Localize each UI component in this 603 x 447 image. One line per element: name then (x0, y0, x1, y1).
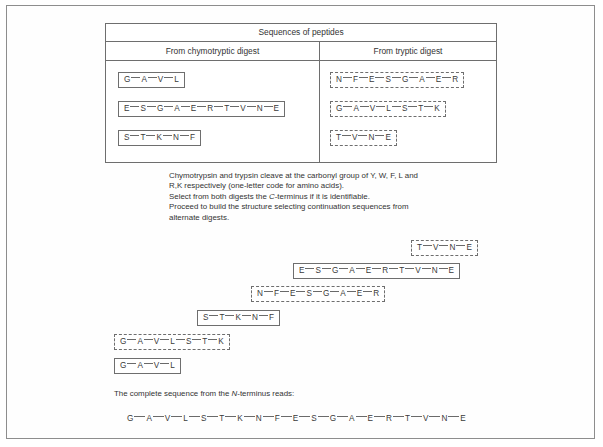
residue: R (207, 102, 213, 116)
chymotryptic-peptide-list: GAVLESGAERTVNESTKNF (106, 61, 320, 162)
staircase-row-tryptic: TVNE (411, 236, 478, 256)
peptide-bond (426, 77, 435, 78)
peptide-chip-tryptic: TVNE (411, 240, 478, 256)
peptide-bond (429, 416, 440, 417)
residue: S (140, 102, 145, 116)
residue: A (137, 335, 142, 349)
residue: V (154, 335, 159, 349)
peptide-chip-tryptic: NFESGAER (251, 286, 385, 302)
residue: N (432, 264, 438, 278)
residue: S (402, 102, 407, 116)
peptide-bond (318, 416, 329, 417)
staircase-row-chymotryptic: ESGAERTVNE (293, 259, 460, 279)
peptide-bond (144, 363, 153, 364)
peptide-bond (322, 268, 331, 269)
peptide-bond (131, 77, 140, 78)
peptide-bond (339, 268, 348, 269)
residue: E (191, 102, 196, 116)
peptide-chip-chymotryptic: STKNF (118, 130, 201, 146)
residue: N (256, 414, 262, 423)
staircase-row-tryptic: NFESGAER (251, 282, 385, 302)
residue: E (274, 102, 279, 116)
peptide-bond (343, 77, 352, 78)
residue: N (368, 131, 374, 145)
residue: E (369, 73, 374, 87)
peptide-bond (347, 291, 356, 292)
residue: G (323, 287, 329, 301)
peptide-bond (264, 106, 273, 107)
residue: K (156, 131, 161, 145)
residue: A (137, 359, 142, 373)
peptide-bond (281, 416, 292, 417)
column-header-chymotryptic: From chymotryptic digest (106, 42, 320, 60)
peptide-row: TVNE (330, 126, 496, 146)
peptide-bond (408, 106, 417, 107)
peptide-row: ESGAERTVNE (118, 97, 319, 117)
figure-frame: Sequences of peptides From chymotryptic … (6, 5, 595, 439)
residue: E (357, 287, 362, 301)
peptide-bond (313, 291, 322, 292)
residue: A (349, 414, 354, 423)
residue: A (419, 73, 424, 87)
staircase-row-tryptic: GAVLSTK (114, 330, 230, 350)
residue: G (402, 73, 408, 87)
residue: G (124, 73, 130, 87)
residue: K (434, 102, 439, 116)
peptide-bond (448, 416, 459, 417)
peptide-bond (360, 106, 369, 107)
peptide-bond (424, 106, 433, 107)
peptide-bond (359, 77, 368, 78)
peptide-bond (146, 135, 155, 136)
residue: V (433, 241, 438, 255)
peptide-row: NFESGAER (330, 68, 496, 88)
peptide-bond (225, 315, 234, 316)
residue: V (352, 131, 357, 145)
peptide-bond (456, 245, 465, 246)
residue: N (173, 131, 179, 145)
peptide-bond (130, 135, 139, 136)
tryptic-peptide-list: NFESGAERGAVLSTKTVNE (320, 61, 496, 162)
residue: S (315, 264, 320, 278)
residue: N (252, 311, 258, 325)
peptide-bond (148, 77, 157, 78)
peptide-bond (164, 106, 173, 107)
peptide-bond (225, 416, 236, 417)
residue: S (203, 311, 208, 325)
residue: T (417, 241, 422, 255)
peptide-bond (439, 268, 448, 269)
table-title: Sequences of peptides (106, 24, 496, 42)
peptide-bond (422, 268, 431, 269)
peptide-bond (127, 339, 136, 340)
residue: S (306, 287, 311, 301)
residue: E (124, 102, 129, 116)
residue: R (452, 73, 458, 87)
residue: N (336, 73, 342, 87)
peptide-chip-tryptic: GAVLSTK (330, 101, 446, 117)
peptide-bond (342, 135, 351, 136)
peptide-bond (343, 106, 352, 107)
residue: N (257, 102, 263, 116)
peptide-chip-chymotryptic: GAVL (118, 72, 185, 88)
residue: F (269, 311, 274, 325)
residue: F (274, 287, 279, 301)
residue: F (190, 131, 195, 145)
residue: N (441, 414, 447, 423)
instruction-text: Chymotrypsin and trypsin cleave at the c… (169, 171, 489, 223)
peptide-row: STKNF (118, 126, 319, 146)
residue: G (332, 264, 338, 278)
peptide-bond (263, 416, 274, 417)
peptide-row: GAVLSTK (330, 97, 496, 117)
final-sequence-label: The complete sequence from the N-terminu… (114, 389, 294, 398)
residue: E (368, 414, 373, 423)
residue: T (405, 414, 410, 423)
peptide-bond (134, 416, 145, 417)
residue: A (349, 264, 354, 278)
peptide-chip-tryptic: TVNE (330, 130, 397, 146)
peptide-row: GAVL (118, 68, 319, 88)
residue: R (373, 287, 379, 301)
residue: A (340, 287, 345, 301)
residue: G (336, 102, 342, 116)
residue: T (399, 264, 404, 278)
peptide-bond (375, 135, 384, 136)
residue: T (219, 414, 224, 423)
